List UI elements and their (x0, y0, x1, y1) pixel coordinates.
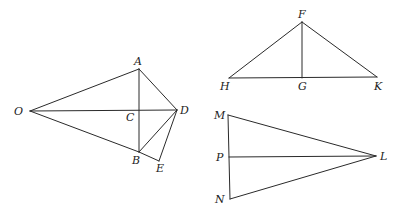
segment-OA (30, 69, 139, 111)
label-F: F (297, 8, 306, 21)
label-N: N (214, 193, 225, 206)
label-E: E (155, 162, 164, 175)
segment-FH (229, 22, 302, 78)
label-M: M (213, 109, 226, 122)
labels-layer: O A C D B E F H G K M P N L (14, 8, 387, 206)
label-G: G (298, 80, 307, 93)
segment-BD (139, 110, 177, 152)
label-H: H (219, 80, 230, 93)
geometry-diagram: O A C D B E F H G K M P N L (0, 0, 398, 214)
segment-OD (30, 110, 177, 111)
segment-NL (230, 156, 376, 199)
triangle-fhk (229, 22, 377, 78)
label-B: B (131, 154, 140, 167)
segment-BE (139, 152, 159, 161)
label-D: D (179, 104, 189, 117)
label-O: O (14, 105, 23, 118)
segment-FK (302, 22, 377, 77)
label-C: C (126, 111, 135, 124)
label-K: K (373, 80, 383, 93)
segments-layer (30, 22, 377, 199)
kite-figure (30, 69, 177, 161)
label-L: L (379, 150, 387, 163)
segment-OB (30, 111, 139, 152)
segment-HK (229, 77, 377, 78)
segment-ML (228, 115, 376, 156)
segment-PL (229, 156, 376, 157)
segment-AD (139, 69, 177, 110)
segment-DE (159, 110, 177, 161)
label-A: A (133, 55, 142, 68)
label-P: P (215, 151, 224, 164)
triangle-lmn (228, 115, 376, 199)
